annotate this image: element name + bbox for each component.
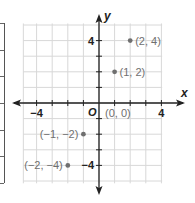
data-point-label: (−1, −2) bbox=[40, 128, 79, 140]
y-axis-label: y bbox=[103, 9, 112, 23]
data-point-label: (0, 0) bbox=[105, 107, 131, 119]
origin-label: O bbox=[88, 106, 97, 118]
y-tick-label: −4 bbox=[81, 159, 94, 171]
data-point-label: (1, 2) bbox=[120, 66, 146, 78]
data-point bbox=[65, 163, 70, 168]
data-point-label: (2, 4) bbox=[135, 35, 161, 47]
y-tick-label: 4 bbox=[88, 35, 95, 47]
x-tick-label: 4 bbox=[158, 107, 165, 119]
data-point bbox=[81, 132, 86, 137]
x-tick-label: −4 bbox=[30, 107, 43, 119]
data-point-label: (−2, −4) bbox=[24, 159, 63, 171]
data-point bbox=[128, 38, 133, 43]
x-axis-label: x bbox=[180, 86, 189, 100]
coordinate-plane: xyO −444−4 (2, 4)(1, 2)(0, 0)(−1, −2)(−2… bbox=[0, 0, 195, 203]
data-point bbox=[112, 69, 117, 74]
